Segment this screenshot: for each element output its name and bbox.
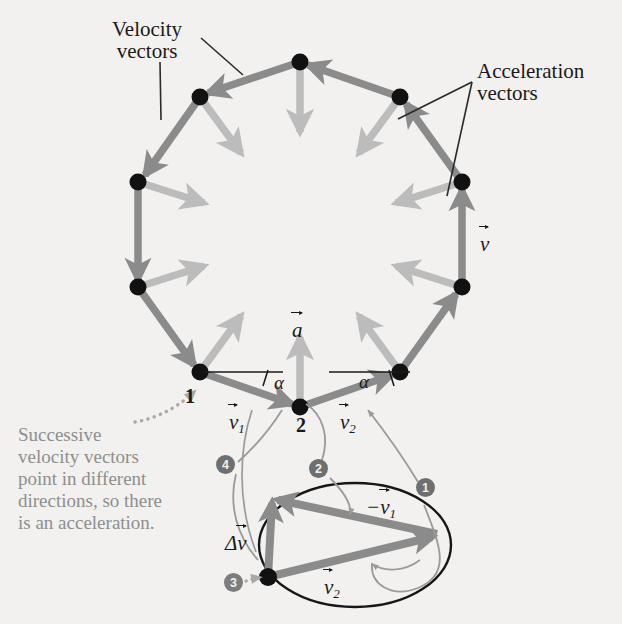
velocity-magnitude-label: v	[480, 232, 489, 257]
callout-marker-2[interactable]: 2	[309, 459, 328, 478]
explanation-caption: Successive velocity vectors point in dif…	[18, 424, 238, 534]
negative-sign: −	[366, 495, 380, 519]
v2-label: v2	[340, 410, 356, 437]
alpha-left-label: α	[274, 372, 284, 394]
caption-line-5: is an acceleration.	[18, 512, 238, 534]
position-dot	[130, 174, 147, 191]
callout-leader-v2-inset	[372, 560, 420, 570]
position-dot	[292, 399, 309, 416]
caption-line-3: point in different	[18, 468, 238, 490]
alpha-right-label: α	[359, 371, 369, 393]
velocity-vectors-line1: Velocity	[112, 18, 182, 40]
caption-line-2: velocity vectors	[18, 446, 238, 468]
delta-v-text: v	[237, 531, 246, 555]
inset-v2-vector	[268, 537, 432, 577]
inset-v2-text: v	[324, 575, 333, 599]
callout-marker-3[interactable]: 3	[224, 573, 243, 592]
position-dot	[292, 54, 309, 71]
caption-line-1: Successive	[18, 424, 238, 446]
point-2-label: 2	[296, 414, 306, 437]
figure-canvas: Velocity vectors Acceleration vectors v …	[0, 0, 622, 624]
velocity-vector	[208, 62, 300, 93]
velocity-vector	[400, 294, 456, 372]
position-dot	[192, 89, 209, 106]
acceleration-vector	[138, 266, 204, 287]
acceleration-label: a	[292, 318, 303, 343]
velocity-vector	[138, 287, 194, 365]
position-dot	[454, 279, 471, 296]
velocity-leader-line-b	[160, 62, 161, 120]
velocity-vectors-line2: vectors	[112, 40, 182, 62]
caption-line-4: directions, so there	[18, 490, 238, 512]
negative-v1-vector	[278, 500, 437, 534]
velocity-vectors-annotation: Velocity vectors	[112, 18, 182, 62]
position-dot	[454, 174, 471, 191]
callout-leader-1b	[368, 410, 418, 482]
acceleration-vector	[200, 316, 241, 372]
acceleration-vectors-line2: vectors	[477, 82, 584, 104]
delta-symbol: Δ	[225, 531, 237, 555]
v2-subscript: 2	[349, 421, 356, 436]
inset-v2-label: v2	[324, 575, 340, 602]
acceleration-vector	[359, 316, 400, 372]
v-generic-text: v	[480, 232, 489, 256]
inset-origin-dot	[259, 568, 277, 586]
velocity-vector	[308, 65, 400, 97]
v1-subscript: 1	[238, 421, 245, 436]
callout-marker-4[interactable]: 4	[216, 455, 235, 474]
acceleration-leader-line-a	[398, 82, 472, 119]
acceleration-vector	[138, 182, 204, 203]
velocity-vector	[145, 97, 200, 175]
position-dot	[130, 279, 147, 296]
a-accel-text: a	[292, 318, 303, 342]
velocity-leader-line-a	[201, 38, 243, 75]
negative-v1-subscript: 1	[390, 506, 397, 521]
acceleration-vector	[359, 97, 400, 153]
acceleration-vectors-annotation: Acceleration vectors	[477, 60, 584, 104]
position-dot	[392, 89, 409, 106]
acceleration-vector	[200, 97, 241, 153]
v2-text: v	[340, 410, 349, 434]
acceleration-vector	[396, 182, 462, 203]
delta-v-label: Δv	[225, 531, 247, 556]
acceleration-vector	[396, 266, 462, 287]
negative-v1-label: −v1	[366, 495, 396, 522]
acceleration-vectors-line1: Acceleration	[477, 60, 584, 82]
delta-v-vector	[268, 503, 272, 577]
negative-v1-text: v	[380, 495, 389, 519]
velocity-vector	[406, 104, 462, 182]
inset-v2-subscript: 2	[333, 586, 340, 601]
callout-leader-2	[306, 404, 325, 460]
point-1-label: 1	[185, 385, 195, 408]
callout-marker-1[interactable]: 1	[416, 478, 435, 497]
